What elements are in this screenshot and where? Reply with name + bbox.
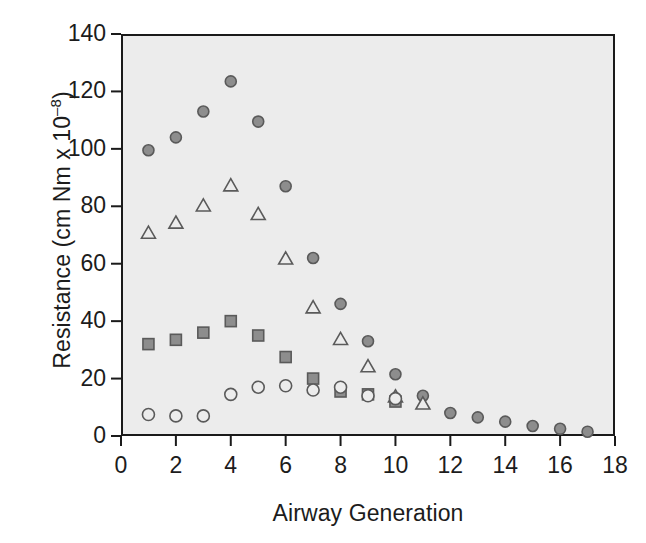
y-tick-label: 100 [46, 137, 106, 160]
y-tick-label: 20 [46, 367, 106, 390]
x-tick-label: 12 [428, 452, 472, 479]
data-point [279, 252, 293, 264]
x-tick-label: 2 [154, 452, 198, 479]
data-point [361, 360, 375, 372]
filled-circle-series [143, 76, 593, 437]
data-point [198, 106, 209, 117]
x-tick-label: 10 [373, 452, 417, 479]
data-point [225, 316, 236, 327]
x-tick-label: 6 [264, 452, 308, 479]
y-tick-label: 0 [46, 424, 106, 447]
x-tick-label: 0 [99, 452, 143, 479]
data-point [252, 381, 264, 393]
resistance-vs-airway-generation-figure: Resistance (cm Nm x 10–8) 02040608010012… [0, 0, 646, 543]
x-tick-label: 16 [538, 452, 582, 479]
x-tick-label: 18 [593, 452, 637, 479]
data-point [224, 179, 238, 191]
data-point [197, 410, 209, 422]
y-tick-label: 60 [46, 252, 106, 275]
y-tick-label: 140 [46, 22, 106, 45]
data-point [472, 412, 483, 423]
y-tick-label: 120 [46, 79, 106, 102]
data-point [362, 390, 374, 402]
data-point [280, 181, 291, 192]
data-point [555, 423, 566, 434]
x-tick-label: 4 [209, 452, 253, 479]
data-point [170, 334, 181, 345]
data-point [582, 426, 593, 437]
data-point [307, 384, 319, 396]
data-point [308, 252, 319, 263]
y-tick-label: 40 [46, 309, 106, 332]
y-tick-marks [111, 34, 121, 436]
data-point [363, 336, 374, 347]
data-point [251, 207, 265, 219]
data-point [280, 352, 291, 363]
data-point [335, 381, 347, 393]
data-point [170, 132, 181, 143]
data-point [527, 420, 538, 431]
data-point [390, 369, 401, 380]
data-point [389, 393, 401, 405]
data-markers-layer [121, 34, 615, 436]
data-point [196, 199, 210, 211]
data-point [225, 388, 237, 400]
data-point [253, 330, 264, 341]
data-point [334, 332, 348, 344]
x-axis-title: Airway Generation [121, 500, 615, 527]
data-point [169, 216, 183, 228]
triangle-series [141, 179, 429, 409]
data-point [253, 116, 264, 127]
data-point [225, 76, 236, 87]
data-point [143, 339, 154, 350]
x-tick-marks [121, 436, 615, 446]
open-circle-series [142, 380, 401, 422]
data-point [306, 301, 320, 313]
x-tick-label: 8 [319, 452, 363, 479]
data-point [143, 145, 154, 156]
data-point [170, 410, 182, 422]
data-point [445, 408, 456, 419]
data-point [335, 298, 346, 309]
data-point [141, 226, 155, 238]
data-point [500, 416, 511, 427]
y-tick-label: 80 [46, 194, 106, 217]
data-point [280, 380, 292, 392]
data-point [198, 327, 209, 338]
caption-strip [0, 528, 646, 543]
data-point [142, 408, 154, 420]
data-point [308, 373, 319, 384]
x-tick-label: 14 [483, 452, 527, 479]
